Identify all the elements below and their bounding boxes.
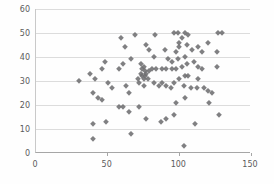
data-point [192,121,198,127]
y-tick-label-20: 20 [6,101,30,110]
data-point [123,83,129,89]
data-point [118,35,124,41]
data-point [99,66,105,72]
data-point [141,83,147,89]
data-point [181,143,187,149]
data-point [169,59,175,65]
data-point [90,90,96,96]
gridline-y-10 [36,129,250,130]
data-point [209,90,215,96]
data-point [128,56,134,62]
data-point [171,112,177,118]
x-tick-label-150: 150 [235,160,265,169]
data-point [76,78,82,84]
data-point [214,64,220,70]
data-point [128,131,134,137]
data-point [109,85,115,91]
gridline-y-40 [36,57,250,58]
data-point [132,32,138,38]
data-point [151,54,157,60]
data-point [122,44,128,50]
data-point [99,97,105,103]
data-point [181,83,187,89]
plot-area [35,9,250,153]
data-point [158,119,164,125]
data-point [184,42,190,48]
data-point [214,49,220,55]
gridline-y-60 [36,9,250,10]
data-point [185,32,191,38]
data-point [189,47,195,53]
data-point [194,85,200,91]
y-tick-label-10: 10 [6,125,30,134]
data-point [199,66,205,72]
data-point [182,95,188,101]
data-point [185,73,191,79]
data-point [188,85,194,91]
data-point [191,59,197,65]
y-tick-label-50: 50 [6,29,30,38]
data-point [116,66,122,72]
scatter-chart: 0102030405060 050100150 [0,0,274,184]
data-point [199,49,205,55]
data-point [120,61,126,67]
data-point [146,47,152,53]
x-tick-mark-100 [179,153,180,156]
y-tick-label-40: 40 [6,53,30,62]
data-point [205,40,211,46]
x-tick-mark-50 [107,153,108,156]
data-point [175,56,181,62]
data-point [102,59,108,65]
data-point [87,71,93,77]
y-tick-label-30: 30 [6,77,30,86]
data-point [182,54,188,60]
data-point [162,47,168,53]
gridline-y-20 [36,105,250,106]
y-tick-label-0: 0 [6,149,30,158]
data-point [175,30,181,36]
data-point [168,85,174,91]
data-point [126,109,132,115]
data-point [90,121,96,127]
x-tick-label-50: 50 [92,160,122,169]
data-point [216,112,222,118]
data-point [143,116,149,122]
x-tick-label-100: 100 [163,160,193,169]
x-tick-label-0: 0 [20,160,50,169]
data-point [136,104,142,110]
data-point [219,30,225,36]
x-tick-mark-150 [251,153,252,156]
data-point [152,32,158,38]
y-tick-label-60: 60 [6,5,30,14]
data-point [126,90,132,96]
data-point [103,119,109,125]
data-point [90,136,96,142]
